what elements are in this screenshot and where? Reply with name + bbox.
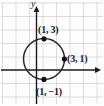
y-axis-label: y	[31, 0, 35, 9]
coordinate-plane-figure: y (1, 3) (3, 1) (1, −1)	[0, 0, 104, 106]
point-label-top: (1, 3)	[38, 25, 58, 35]
point-label-right: (3, 1)	[67, 54, 87, 64]
point-top	[41, 36, 46, 41]
point-bottom	[41, 77, 46, 82]
point-label-bottom: (1, −1)	[36, 87, 62, 97]
